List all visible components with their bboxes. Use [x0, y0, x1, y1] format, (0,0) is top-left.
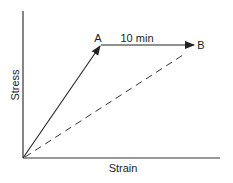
stress-strain-diagram: A 10 min B Strain Stress [0, 0, 233, 183]
y-axis-label: Stress [9, 69, 21, 101]
x-axis-label: Strain [109, 162, 138, 174]
point-a-label: A [94, 32, 102, 44]
loading-line [23, 46, 100, 158]
point-b-label: B [197, 39, 204, 51]
hold-time-label: 10 min [120, 32, 153, 44]
secant-dashed-line [25, 55, 183, 157]
